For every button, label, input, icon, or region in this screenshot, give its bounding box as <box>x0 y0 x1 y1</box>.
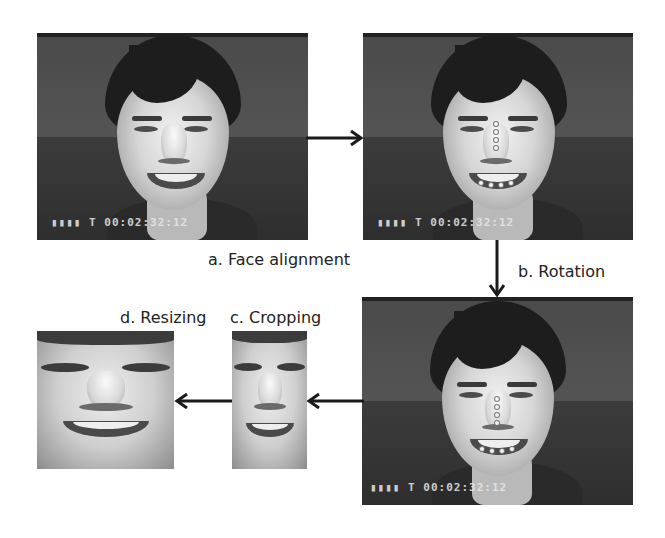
landmark-point <box>494 122 498 126</box>
landmark-point <box>499 183 503 187</box>
landmark-point <box>480 447 484 451</box>
landmark-point <box>490 449 494 453</box>
landmark-point <box>495 413 499 417</box>
step-label-rotation: b. Rotation <box>518 262 605 281</box>
step-label-face-alignment: a. Face alignment <box>208 250 350 269</box>
timecode-overlay: ▮▮▮▮ T 00:02:32:12 <box>370 481 507 494</box>
landmark-point <box>489 183 493 187</box>
landmark-point <box>495 421 499 425</box>
cropped-face-image <box>232 331 307 469</box>
arrow-left-icon <box>306 393 364 409</box>
timecode-overlay: ▮▮▮▮ T 00:02:32:12 <box>377 216 514 229</box>
aligned-face-image: ▮▮▮▮ T 00:02:32:12 <box>363 33 633 240</box>
landmark-point <box>510 447 514 451</box>
rotated-face-image: ▮▮▮▮ T 00:02:32:12 <box>362 297 633 505</box>
landmark-point <box>509 181 513 185</box>
landmark-point <box>495 405 499 409</box>
landmark-point <box>494 130 498 134</box>
landmark-point <box>494 138 498 142</box>
original-face-image: ▮▮▮▮ T 00:02:32:12 <box>37 33 308 240</box>
arrow-right-icon <box>306 130 364 146</box>
step-label-resizing: d. Resizing <box>120 308 207 327</box>
step-label-cropping: c. Cropping <box>230 308 321 327</box>
arrow-down-icon <box>489 240 505 298</box>
landmark-point <box>494 146 498 150</box>
landmark-point <box>500 449 504 453</box>
resized-face-image <box>37 331 174 469</box>
timecode-overlay: ▮▮▮▮ T 00:02:32:12 <box>51 216 188 229</box>
arrow-left-icon <box>174 393 232 409</box>
landmark-point <box>479 181 483 185</box>
landmark-point <box>495 397 499 401</box>
